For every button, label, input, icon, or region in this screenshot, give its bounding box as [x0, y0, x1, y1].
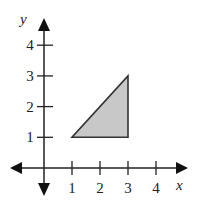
x-axis-left-arrow [10, 162, 22, 174]
x-tick-label: 4 [152, 180, 160, 196]
shapes [72, 76, 128, 137]
coordinate-plane: 12341234 x y [0, 0, 198, 205]
y-axis-label: y [18, 11, 27, 27]
y-axis-down-arrow [38, 183, 50, 196]
y-tick-label: 4 [26, 37, 34, 53]
x-axis-right-arrow [176, 162, 188, 174]
y-tick-label: 2 [26, 99, 34, 115]
x-tick-label: 1 [68, 180, 76, 196]
y-axis-up-arrow [38, 18, 50, 31]
triangle-region [72, 76, 128, 137]
y-tick-label: 3 [26, 68, 34, 84]
x-axis-label: x [175, 177, 183, 193]
x-tick-label: 2 [96, 180, 104, 196]
x-tick-label: 3 [124, 180, 132, 196]
y-tick-label: 1 [26, 129, 34, 145]
